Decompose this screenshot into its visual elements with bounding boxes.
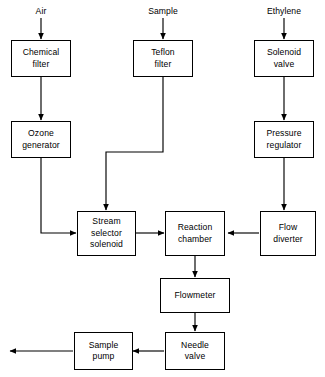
flowchart-diagram: Air Sample Ethylene Chemical filter Tefl…: [0, 0, 325, 377]
input-label-air: Air: [21, 6, 61, 16]
node-chemical-filter-label: Chemical filter: [23, 47, 60, 70]
input-label-sample: Sample: [139, 6, 187, 16]
node-reaction-chamber-label: Reaction chamber: [178, 222, 213, 245]
node-ozone-generator[interactable]: Ozone generator: [11, 121, 71, 158]
node-ozone-generator-label: Ozone generator: [22, 128, 60, 151]
node-needle-valve-label: Needle valve: [181, 340, 209, 363]
node-pressure-regulator[interactable]: Pressure regulator: [254, 121, 314, 158]
node-sample-pump-label: Sample pump: [89, 340, 119, 363]
edge-ozone-generator-to-stream-selector-solenoid: [41, 158, 76, 233]
node-teflon-filter-label: Teflon filter: [151, 47, 175, 70]
node-sample-pump[interactable]: Sample pump: [74, 332, 133, 370]
node-chemical-filter[interactable]: Chemical filter: [11, 40, 71, 77]
node-solenoid-valve[interactable]: Solenoid valve: [254, 40, 314, 77]
edge-teflon-filter-to-stream-selector-solenoid: [106, 77, 163, 210]
node-reaction-chamber[interactable]: Reaction chamber: [165, 211, 225, 256]
node-flowmeter-label: Flowmeter: [174, 290, 215, 302]
node-stream-selector-solenoid-label: Stream selector solenoid: [90, 216, 123, 251]
node-stream-selector-solenoid[interactable]: Stream selector solenoid: [77, 211, 136, 256]
node-flow-diverter-label: Flow diverter: [273, 222, 302, 245]
node-flowmeter[interactable]: Flowmeter: [160, 278, 230, 313]
node-teflon-filter[interactable]: Teflon filter: [133, 40, 193, 77]
node-flow-diverter[interactable]: Flow diverter: [260, 211, 316, 256]
node-needle-valve[interactable]: Needle valve: [165, 332, 225, 370]
input-label-ethylene: Ethylene: [256, 6, 312, 16]
node-pressure-regulator-label: Pressure regulator: [266, 128, 301, 151]
node-solenoid-valve-label: Solenoid valve: [267, 47, 301, 70]
